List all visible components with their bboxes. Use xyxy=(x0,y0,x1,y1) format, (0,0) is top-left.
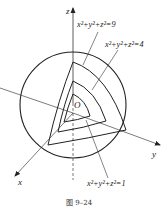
sphere-diagram: z x y O x²+y²+z²=9 x²+y²+z²=4 x²+y²+z²=1… xyxy=(0,0,165,208)
x-axis-label: x xyxy=(17,177,22,187)
figure-caption: 图 9–24 xyxy=(66,199,93,207)
label-r3: x²+y²+z²=9 xyxy=(76,20,116,29)
origin-label: O xyxy=(74,100,81,110)
z-axis-label: z xyxy=(65,6,70,16)
y-axis-label: y xyxy=(151,149,156,159)
label-r2: x²+y²+z²=4 xyxy=(104,40,144,49)
label-r1: x²+y²+z²=1 xyxy=(86,179,126,188)
leader-r1 xyxy=(86,120,108,178)
octant-surface-r2 xyxy=(58,81,106,132)
octant-surface-r3 xyxy=(48,62,126,145)
leader-r3 xyxy=(83,32,98,65)
leader-r2 xyxy=(92,50,118,90)
y-axis xyxy=(73,113,160,145)
